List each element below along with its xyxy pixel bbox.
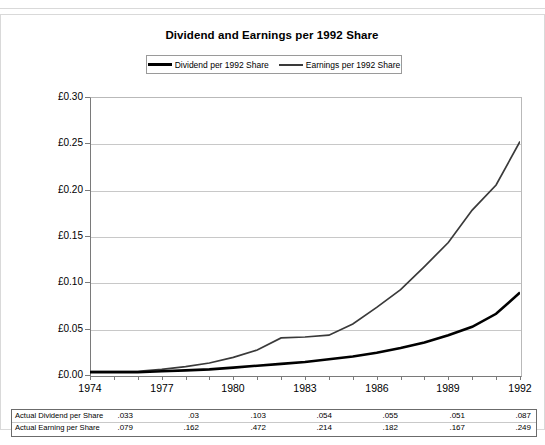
x-axis-tick <box>257 376 258 380</box>
chart-data-table[interactable]: Actual Dividend per Share .033.03.103.05… <box>11 409 537 437</box>
x-axis-tick <box>90 376 91 380</box>
page-top-rule <box>0 8 545 9</box>
series-svg <box>90 97 520 375</box>
line-series-dividend <box>90 293 520 373</box>
y-axis-tick-label: £0.15 <box>27 230 83 241</box>
x-axis-tick-label: 1983 <box>285 382 325 394</box>
y-axis-tick-label: £0.10 <box>27 276 83 287</box>
x-axis-tick-label: 1980 <box>213 382 253 394</box>
x-axis-tick <box>305 376 306 380</box>
x-axis-tick <box>329 376 330 380</box>
x-axis-tick-label: 1974 <box>70 382 110 394</box>
table-cell: .167 <box>425 423 465 432</box>
x-axis-tick <box>186 376 187 380</box>
x-axis-tick <box>281 376 282 380</box>
table-cell: .087 <box>491 411 531 420</box>
table-row-label-dividend: Actual Dividend per Share <box>15 411 103 420</box>
table-cell: .214 <box>292 423 332 432</box>
y-axis-tick <box>85 329 90 330</box>
x-axis-tick <box>209 376 210 380</box>
legend-line-icon-dividend <box>148 63 172 66</box>
x-axis-tick <box>138 376 139 380</box>
x-axis-tick <box>472 376 473 380</box>
x-axis-tick-label: 1989 <box>428 382 468 394</box>
y-axis-tick <box>85 282 90 283</box>
table-cell: .051 <box>425 411 465 420</box>
x-axis-tick <box>401 376 402 380</box>
x-axis-tick-label: 1977 <box>142 382 182 394</box>
x-axis-tick <box>162 376 163 380</box>
legend-entry-earnings[interactable]: Earnings per 1992 Share <box>279 60 401 70</box>
table-row-label-earnings: Actual Earning per Share <box>15 423 100 432</box>
table-row: Actual Dividend per Share .033.03.103.05… <box>12 411 536 423</box>
y-axis-tick <box>85 143 90 144</box>
chart-legend[interactable]: Dividend per 1992 Share Earnings per 199… <box>146 55 402 74</box>
y-axis-tick <box>85 97 90 98</box>
y-axis-tick-label: £0.20 <box>27 184 83 195</box>
x-axis-tick <box>424 376 425 380</box>
screenshot-frame: Dividend and Earnings per 1992 Share Div… <box>0 0 545 445</box>
x-axis-tick <box>233 376 234 380</box>
y-axis-tick-label: £0.25 <box>27 137 83 148</box>
x-axis-tick <box>114 376 115 380</box>
table-row: Actual Earning per Share .079.162.472.21… <box>12 423 536 435</box>
chart-object[interactable]: Dividend and Earnings per 1992 Share Div… <box>1 15 543 428</box>
legend-entry-dividend[interactable]: Dividend per 1992 Share <box>148 60 269 70</box>
legend-label-earnings: Earnings per 1992 Share <box>306 60 401 70</box>
y-axis-tick-label: £0.00 <box>27 369 83 380</box>
line-series-earnings <box>90 142 520 372</box>
table-cell: .472 <box>226 423 266 432</box>
table-cell: .079 <box>93 423 133 432</box>
table-cell: .03 <box>159 411 199 420</box>
y-axis-tick <box>85 236 90 237</box>
x-axis-tick <box>377 376 378 380</box>
x-axis-tick-label: 1986 <box>357 382 397 394</box>
y-axis-tick-label: £0.30 <box>27 91 83 102</box>
x-axis-tick <box>496 376 497 380</box>
y-axis-tick-label: £0.05 <box>27 323 83 334</box>
table-cell: .054 <box>292 411 332 420</box>
table-cell: .162 <box>159 423 199 432</box>
table-cell: .103 <box>226 411 266 420</box>
legend-line-icon-earnings <box>279 64 303 66</box>
x-axis-tick <box>448 376 449 380</box>
x-axis-tick <box>520 376 521 380</box>
y-axis-tick <box>85 190 90 191</box>
table-cell: .033 <box>93 411 133 420</box>
series-lines <box>90 97 520 375</box>
table-cell: .055 <box>358 411 398 420</box>
chart-title: Dividend and Earnings per 1992 Share <box>1 29 543 41</box>
legend-label-dividend: Dividend per 1992 Share <box>175 60 269 70</box>
x-axis-tick <box>353 376 354 380</box>
x-axis-tick-label: 1992 <box>500 382 540 394</box>
table-cell: .249 <box>491 423 531 432</box>
table-cell: .182 <box>358 423 398 432</box>
